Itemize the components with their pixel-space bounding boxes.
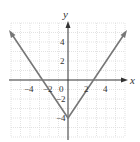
x-tick-neg2: −2 <box>43 84 53 94</box>
right-arrow-icon <box>121 30 128 38</box>
y-tick-2: 2 <box>60 56 65 66</box>
y-axis-label: y <box>62 8 68 20</box>
chart: x y −4 −2 0 2 4 4 2 −2 −4 <box>0 0 140 142</box>
left-arrow-icon <box>9 30 16 38</box>
x-tick-4: 4 <box>103 84 108 94</box>
x-tick-2: 2 <box>84 84 89 94</box>
x-axis-label: x <box>129 74 135 86</box>
origin-label: 0 <box>59 84 64 94</box>
y-tick-neg2: −2 <box>56 94 66 104</box>
y-axis-arrow-icon <box>66 21 71 28</box>
y-tick-neg4: −4 <box>56 113 66 123</box>
x-tick-neg4: −4 <box>24 84 34 94</box>
x-axis-arrow-icon <box>121 78 128 83</box>
y-tick-4: 4 <box>60 37 65 47</box>
axes <box>9 24 125 140</box>
